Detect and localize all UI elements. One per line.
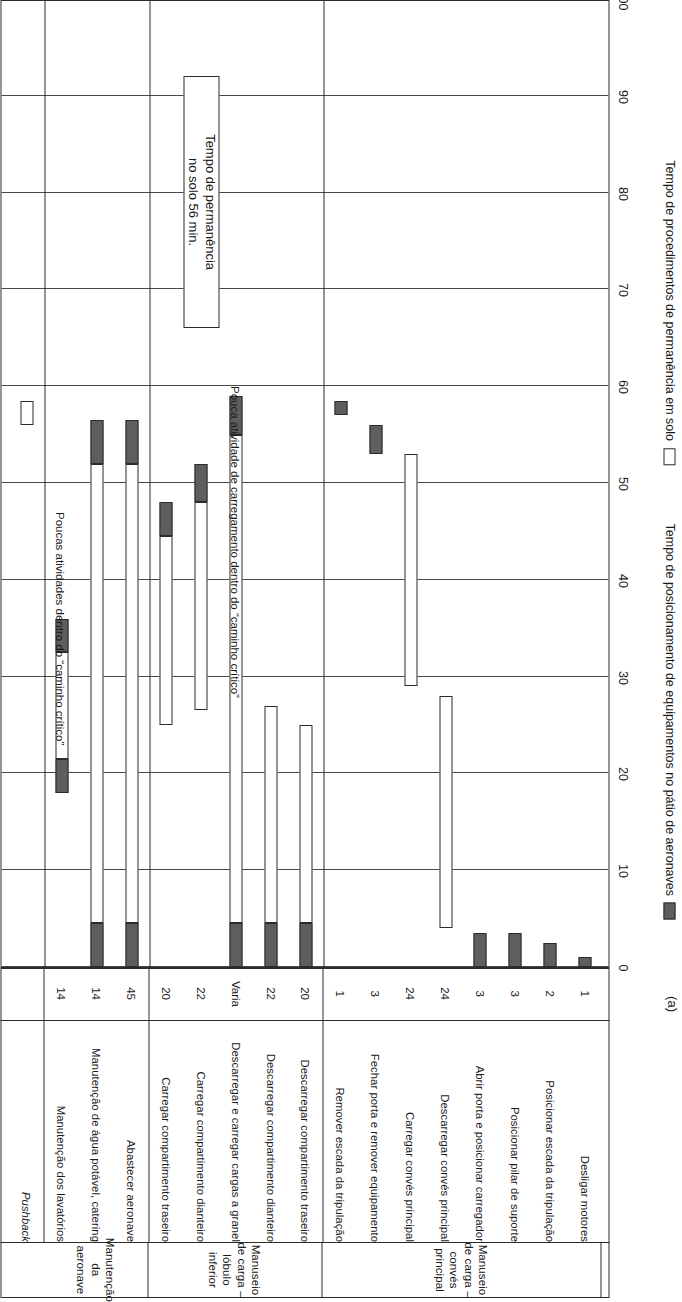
figure-label: (a)	[664, 996, 679, 1012]
duration-value: 20	[298, 988, 310, 1001]
bar-segment-procedure	[264, 706, 277, 924]
bar-segment-equipment	[264, 923, 277, 967]
group-label: Manuseio de carga –convés principal	[432, 1242, 490, 1298]
axis-tick-label: 90	[615, 90, 629, 104]
bar-segment-equipment	[473, 933, 486, 967]
gantt-bar[interactable]	[20, 1, 33, 967]
bar-segment-procedure	[194, 502, 207, 710]
duration-value: 1	[578, 991, 590, 997]
chart-annotation: Pouca atividade de carregamento dentro d…	[228, 386, 240, 698]
task-label: Descarregar e carregar cargas a granel	[229, 1042, 241, 1242]
duration-value: 3	[508, 991, 520, 997]
task-label: Posicionar escada da tripulação	[543, 1080, 555, 1242]
task-row[interactable]: Carregar convés principal	[392, 1020, 427, 1242]
gantt-bar[interactable]	[125, 1, 138, 967]
duration-value: 14	[54, 988, 66, 1001]
bar-segment-equipment	[55, 759, 68, 793]
gantt-bar[interactable]	[299, 1, 312, 967]
duration-value: 20	[159, 988, 171, 1001]
bar-segment-equipment	[125, 923, 138, 967]
axis-tick-label: 80	[615, 187, 629, 201]
gantt-bar[interactable]	[473, 1, 486, 967]
x-axis: 0102030405060708090100	[609, 0, 653, 968]
task-label: Remover escada da tripulação	[333, 1087, 345, 1242]
bar-segment-equipment	[578, 957, 591, 967]
duration-cell: 45	[113, 968, 148, 1020]
gantt-bar[interactable]	[439, 1, 452, 967]
legend-item: Tempo de procedimentos de permanência em…	[662, 160, 676, 465]
duration-value: 14	[89, 988, 101, 1001]
duration-cell: 14	[78, 968, 113, 1020]
task-row[interactable]: Manutenção dos lavatórios	[43, 1020, 78, 1242]
task-row[interactable]: Descarregar compartimento dianteiro	[252, 1020, 287, 1242]
legend-item: Tempo de posicionamento de equipamentos …	[662, 523, 676, 919]
duration-cell: 24	[392, 968, 427, 1020]
gantt-bar[interactable]	[404, 1, 417, 967]
group-gridline	[149, 1, 150, 967]
duration-value: 3	[473, 991, 485, 997]
gantt-bar[interactable]	[159, 1, 172, 967]
group-cell	[8, 1242, 43, 1298]
task-label: Descarregar convés principal	[438, 1094, 450, 1242]
task-row[interactable]: Abastecer aeronave	[113, 1020, 148, 1242]
duration-cell: 3	[496, 968, 531, 1020]
duration-cell: 3	[357, 968, 392, 1020]
group-label: Manuseio de carga –lóbulo inferior	[205, 1242, 263, 1298]
task-row[interactable]: Carregar compartimento traseiro	[148, 1020, 183, 1242]
bar-segment-procedure	[404, 454, 417, 686]
gantt-bar[interactable]	[334, 1, 347, 967]
duration-cell: 2	[531, 968, 566, 1020]
bar-segment-procedure	[159, 536, 172, 725]
task-label: Pushback	[19, 1192, 31, 1242]
task-label: Desligar motores	[578, 1156, 590, 1242]
group-label: Manutençãoda aeronave	[73, 1238, 116, 1302]
gantt-plot-area: Tempo de permanênciano solo 56 min.Pouca…	[0, 0, 609, 968]
task-row[interactable]: Fechar porta e remover equipamento	[357, 1020, 392, 1242]
duration-value: 1	[333, 991, 345, 997]
gantt-bar[interactable]	[508, 1, 521, 967]
task-label: Carregar convés principal	[403, 1112, 415, 1242]
bar-segment-equipment	[369, 425, 382, 454]
axis-tick-label: 40	[615, 574, 629, 588]
duration-value: Varia	[229, 981, 241, 1007]
gantt-bar[interactable]	[90, 1, 103, 967]
bar-segment-procedure	[20, 401, 33, 425]
task-row[interactable]: Descarregar e carregar cargas a granel	[217, 1020, 252, 1242]
task-label: Manutenção dos lavatórios	[54, 1106, 66, 1242]
gantt-bar[interactable]	[369, 1, 382, 967]
duration-value: 2	[543, 991, 555, 997]
chart-annotation: Poucas atividades dentro do “caminho crí…	[53, 512, 65, 745]
task-label: Descarregar compartimento traseiro	[298, 1059, 310, 1242]
group-cell: Manuseio de carga –lóbulo inferior	[148, 1242, 322, 1298]
duration-cell: Varia	[217, 968, 252, 1020]
ground-time-callout: Tempo de permanênciano solo 56 min.	[183, 76, 219, 328]
task-row[interactable]: Carregar compartimento dianteiro	[182, 1020, 217, 1242]
duration-cell: 22	[182, 968, 217, 1020]
duration-value: 22	[194, 988, 206, 1001]
bar-segment-equipment	[125, 420, 138, 464]
gantt-bar[interactable]	[578, 1, 591, 967]
bar-segment-equipment	[543, 943, 556, 967]
task-row[interactable]: Remover escada da tripulação	[322, 1020, 357, 1242]
duration-cell: 20	[148, 968, 183, 1020]
task-row[interactable]: Posicionar pilar de suporte	[496, 1020, 531, 1242]
duration-cell: 1	[322, 968, 357, 1020]
task-row[interactable]: Abrir porta e posicionar carregador	[461, 1020, 496, 1242]
task-label: Posicionar pilar de suporte	[508, 1107, 520, 1242]
task-row[interactable]: Posicionar escada da tripulação	[531, 1020, 566, 1242]
gantt-bar[interactable]	[264, 1, 277, 967]
bar-segment-equipment	[194, 464, 207, 503]
chart-legend: Tempo de posicionamento de equipamentos …	[656, 0, 682, 968]
task-table: Manuseio de carga –convés principalManus…	[0, 968, 609, 1298]
task-row[interactable]: Pushback	[8, 1020, 43, 1242]
bar-segment-procedure	[90, 464, 103, 924]
gantt-bar[interactable]	[543, 1, 556, 967]
legend-swatch-procedure	[663, 448, 675, 465]
gantt-bar[interactable]	[55, 1, 68, 967]
task-row[interactable]: Desligar motores	[566, 1020, 601, 1242]
task-row[interactable]: Manutenção de água potável, catering	[78, 1020, 113, 1242]
axis-tick-label: 20	[615, 767, 629, 781]
bar-segment-procedure	[299, 725, 312, 923]
task-row[interactable]: Descarregar compartimento traseiro	[287, 1020, 322, 1242]
task-row[interactable]: Descarregar convés principal	[427, 1020, 462, 1242]
